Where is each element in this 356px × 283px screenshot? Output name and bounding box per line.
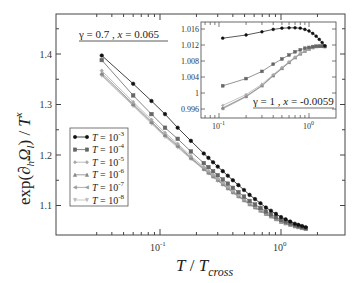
data-point	[85, 148, 88, 151]
data-point	[279, 215, 283, 219]
data-point	[281, 27, 284, 30]
data-point	[131, 82, 135, 86]
data-point	[163, 126, 167, 130]
data-point	[150, 99, 154, 103]
data-point	[299, 48, 302, 51]
data-point	[221, 37, 224, 40]
data-point	[284, 218, 288, 222]
data-point	[300, 224, 304, 228]
data-point	[207, 165, 211, 169]
data-point	[321, 41, 324, 44]
data-point	[294, 26, 297, 29]
data-point	[315, 45, 318, 48]
data-point	[303, 47, 306, 50]
data-point	[281, 58, 284, 61]
data-point	[288, 26, 291, 29]
inset-xtick-label: 100	[303, 120, 314, 131]
data-point	[245, 34, 248, 37]
data-point	[237, 190, 241, 194]
data-point	[226, 174, 230, 178]
data-point	[237, 183, 241, 187]
data-point	[269, 209, 273, 213]
y-axis-title: exp(∂hΩl) / Tx	[12, 112, 36, 205]
data-point	[288, 220, 292, 224]
data-point	[318, 38, 321, 41]
inset-annotation: γ = 1 , x = -0.0059	[252, 95, 334, 107]
data-point	[207, 156, 211, 160]
data-point	[321, 45, 324, 48]
data-point	[311, 45, 314, 48]
data-point	[216, 173, 220, 177]
data-point	[297, 223, 301, 227]
data-point	[221, 84, 224, 87]
data-point	[163, 112, 167, 116]
x-axis-title: T / Tcross	[176, 256, 233, 279]
inset-ytick-label: 1.004	[181, 73, 199, 82]
main-xtick-label: 10-1	[150, 240, 166, 253]
data-point	[211, 169, 215, 173]
inset-ytick-label: 1.008	[181, 57, 199, 66]
data-point	[189, 139, 193, 143]
figure: 1.4 1.3 1.2 1.1 10-1 100 T / Tcross exp(…	[0, 0, 356, 283]
data-point	[242, 188, 246, 192]
data-point	[272, 28, 275, 31]
data-point	[73, 135, 76, 138]
main-ytick-label: 1.1	[40, 200, 53, 211]
data-point	[131, 94, 135, 98]
data-point	[248, 199, 252, 203]
data-point	[221, 169, 225, 173]
data-point	[216, 165, 220, 169]
data-point	[269, 213, 273, 217]
data-point	[261, 70, 264, 73]
data-point	[253, 197, 257, 201]
data-point	[248, 193, 252, 197]
data-point	[259, 202, 263, 206]
data-point	[288, 54, 291, 57]
data-point	[85, 135, 88, 138]
data-point	[303, 28, 306, 31]
data-point	[308, 30, 311, 33]
inset-ytick-label: 1.012	[181, 41, 199, 50]
data-point	[304, 225, 308, 229]
data-point	[221, 178, 225, 182]
data-point	[274, 215, 278, 219]
inset-ytick-label: 0.996	[181, 105, 199, 114]
data-point	[299, 27, 302, 30]
data-point	[294, 50, 297, 53]
data-point	[259, 206, 263, 210]
data-point	[308, 46, 311, 49]
data-point	[202, 152, 206, 156]
data-point	[242, 195, 246, 199]
data-point	[318, 45, 321, 48]
data-point	[73, 148, 76, 151]
data-point	[274, 212, 278, 216]
data-point	[293, 222, 297, 226]
data-point	[189, 150, 193, 154]
inset-ytick-label: 1	[195, 89, 199, 98]
main-ytick-label: 1.2	[40, 150, 53, 161]
inset-plot: 1.016 1.012 1.008 1.004 1 0.996 10-1 100…	[181, 22, 336, 131]
data-point	[272, 63, 275, 66]
data-point	[100, 54, 104, 58]
main-annotation: γ = 0.7 , x = 0.065	[78, 28, 159, 40]
data-point	[150, 112, 154, 116]
data-point	[231, 186, 235, 190]
data-point	[315, 35, 318, 38]
data-point	[176, 126, 180, 130]
data-point	[231, 178, 235, 182]
inset-ytick-label: 1.016	[181, 25, 199, 34]
data-point	[245, 77, 248, 80]
main-xtick-label: 100	[273, 240, 287, 253]
inset-xtick-label: 10-1	[212, 120, 225, 131]
data-point	[264, 206, 268, 210]
data-point	[226, 182, 230, 186]
data-point	[261, 30, 264, 33]
data-point	[211, 160, 215, 164]
data-point	[253, 203, 257, 207]
data-point	[100, 58, 104, 62]
legend: T = 10-3T = 10-4T = 10-5T = 10-6T = 10-7…	[70, 128, 128, 206]
data-point	[176, 137, 180, 141]
main-ytick-label: 1.4	[40, 49, 53, 60]
data-point	[202, 161, 206, 165]
main-ytick-label: 1.3	[40, 99, 53, 110]
